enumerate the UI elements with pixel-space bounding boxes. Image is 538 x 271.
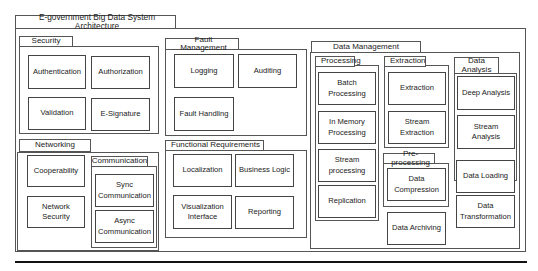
fault-handling-box: Fault Handling [174,97,234,131]
security-label: Security [19,36,73,47]
batch-processing-box: Batch Processing [318,72,376,105]
sync-communication-box: Sync Communication [95,174,154,207]
functional-requirements-label: Functional Requirements [165,140,264,151]
stream-extraction-box: Stream Extraction [388,111,446,144]
localization-box: Localization [173,154,232,187]
data-management-label: Data Management [311,41,421,53]
network-security-box: Network Security [27,196,85,228]
deep-analysis-box: Deep Analysis [457,76,515,110]
authentication-box: Authentication [28,55,86,89]
in-memory-processing-box: In Memory Processing [318,111,376,144]
extraction-label: Extraction [384,56,426,67]
logging-box: Logging [174,54,234,88]
business-logic-box: Business Logic [235,154,294,187]
data-loading-box: Data Loading [456,160,515,193]
diagram-title: E-government Big Data System Architectur… [15,15,176,29]
async-communication-box: Async Communication [95,210,154,243]
processing-label: Processing [315,56,355,67]
extraction-box: Extraction [388,72,446,105]
validation-box: Validation [28,97,86,130]
cooperability-box: Cooperability [27,155,85,187]
pre-processing-label: Pre-processing [383,153,435,164]
networking-label: Networking [19,139,91,152]
data-analysis-label: Data Analysis [454,57,499,74]
data-compression-box: Data Compression [387,168,446,201]
auditing-box: Auditing [238,54,297,88]
e-signature-box: E-Signature [91,98,150,131]
stream-analysis-box: Stream Analysis [457,115,515,149]
replication-box: Replication [318,185,376,218]
stream-processing-box: Stream processing [318,149,376,182]
fault-management-label: Fault Management [165,38,239,50]
data-archiving-box: Data Archiving [387,212,446,245]
reporting-box: Reporting [235,196,294,229]
visualization-interface-box: Visualization Interface [173,195,232,229]
communication-label: Communication [91,156,148,167]
bottom-rule [15,261,527,263]
data-transformation-box: Data Transformation [456,195,515,228]
authorization-box: Authorization [91,56,150,89]
